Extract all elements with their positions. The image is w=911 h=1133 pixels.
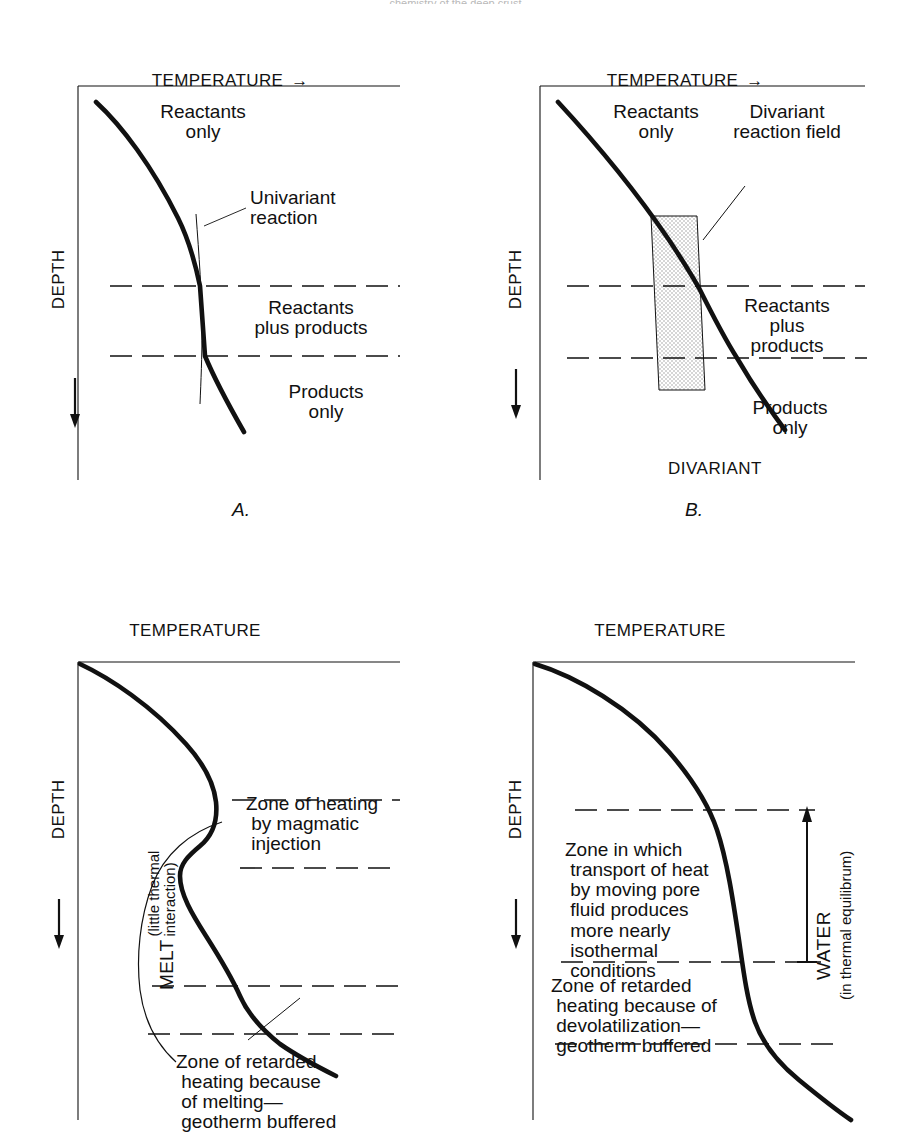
panel-b-reactants-plus-products-label: Reactants plus products (717, 296, 857, 356)
panel-c-melt-label-group: MELT (little thermal interaction) (146, 851, 178, 990)
panel-a-products-only-label: Products only (256, 382, 396, 422)
panel-b-reactants-only-label: Reactants only (591, 102, 721, 142)
panel-c: TEMPERATURE DEPTH Zone of heat (0, 600, 455, 1123)
panel-a-univariant-reaction-label: Univariant reaction (250, 188, 420, 228)
panel-c-zone-of-heating-label: Zone of heating by magmatic injection (246, 794, 446, 854)
panel-b-divariant-caption: DIVARIANT (615, 460, 815, 478)
panel-c-geotherm-curve (80, 664, 336, 1076)
panel-d-water-label: WATER (813, 911, 835, 980)
clipped-header-text: chemistry of the deep crust (0, 0, 911, 4)
panel-b-divariant-band (651, 216, 705, 390)
panel-d: TEMPERATURE DEPTH (455, 600, 911, 1123)
panel-b-divariant-leader (703, 186, 745, 240)
panel-b-products-only-label: Products only (725, 398, 855, 438)
panel-a-reactants-plus-products-label: Reactants plus products (216, 298, 406, 338)
panel-a-univariant-leader (204, 208, 246, 226)
panel-d-zone-isothermal-label: Zone in which transport of heat by movin… (565, 840, 775, 981)
panel-a-reactants-only-label: Reactants only (138, 102, 268, 142)
panel-c-melt-label: MELT (156, 940, 178, 990)
panel-d-zone-retarded-heating-label: Zone of retarded heating because of devo… (551, 976, 811, 1057)
panel-b-letter: B. (685, 500, 703, 521)
panel-a: TEMPERATURE→ DEPTH Reactants (0, 40, 455, 540)
panel-c-plot (0, 600, 455, 1123)
panel-d-water-label-group: WATER (813, 911, 835, 980)
panel-b: TEMPERATURE→ DEPTH (455, 40, 911, 540)
panel-c-zone-of-retarded-heating-label: Zone of retarded heating because of melt… (176, 1052, 426, 1133)
panel-d-water-sublabel-group: (in thermal equilibrum) (837, 851, 854, 1000)
panel-a-letter: A. (232, 500, 250, 521)
panel-d-water-sublabel: (in thermal equilibrum) (837, 851, 854, 1000)
water-text: WATER (813, 911, 834, 980)
panel-a-geotherm-curve (96, 102, 244, 432)
panel-c-melt-sublabel: (little thermal interaction) (146, 851, 178, 937)
panel-b-divariant-reaction-field-label: Divariant reaction field (707, 102, 867, 142)
